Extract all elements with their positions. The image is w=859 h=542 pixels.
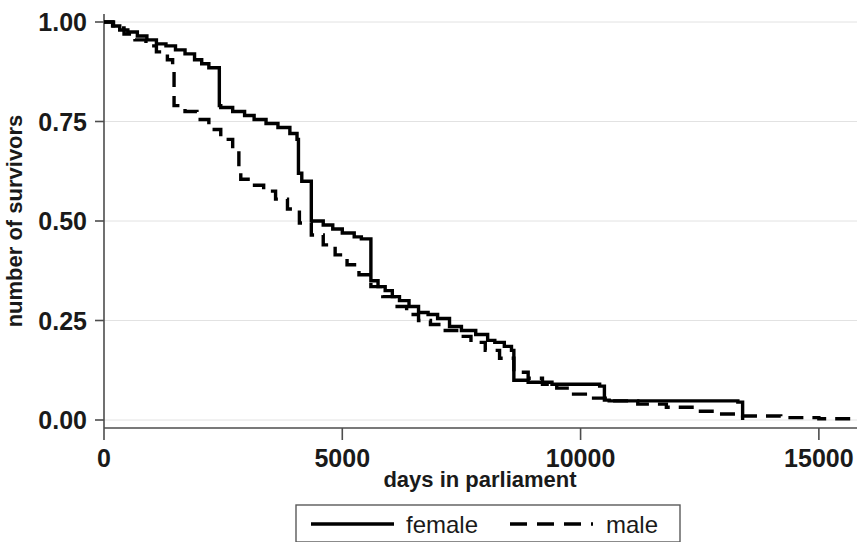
x-axis-title: days in parliament [383, 467, 577, 492]
y-axis-ticks: 0.000.250.500.751.00 [38, 8, 104, 434]
y-tick-label-4: 1.00 [38, 8, 87, 36]
x-axis-ticks: 050001000015000 [97, 428, 854, 472]
x-tick-label-3: 15000 [784, 444, 854, 472]
legend-label-female: female [406, 511, 478, 538]
y-tick-label-3: 0.75 [38, 108, 87, 136]
survival-chart: 0.000.250.500.751.00 050001000015000 day… [0, 0, 859, 542]
y-axis-title: number of survivors [2, 115, 27, 328]
x-tick-label-1: 5000 [314, 444, 370, 472]
chart-canvas: 0.000.250.500.751.00 050001000015000 day… [0, 0, 859, 542]
legend-label-male: male [606, 511, 658, 538]
y-tick-label-0: 0.00 [38, 406, 87, 434]
gridlines [104, 22, 857, 420]
y-tick-label-2: 0.50 [38, 207, 87, 235]
y-tick-label-1: 0.25 [38, 307, 87, 335]
chart-legend: female male [296, 505, 680, 542]
x-tick-label-0: 0 [97, 444, 111, 472]
